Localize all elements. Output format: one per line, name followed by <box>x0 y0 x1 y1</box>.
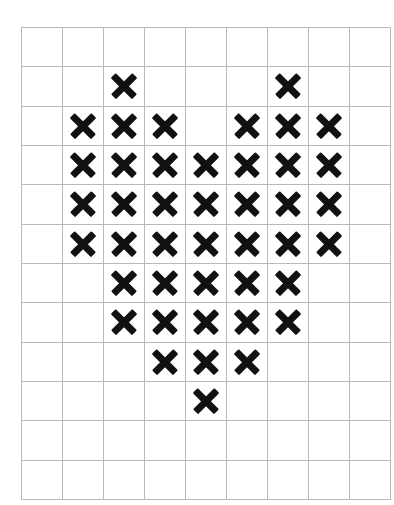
stitch-cell-empty[interactable] <box>104 381 145 420</box>
stitch-cell-filled[interactable] <box>186 303 227 342</box>
stitch-cell-empty[interactable] <box>145 381 186 420</box>
stitch-cell-empty[interactable] <box>268 421 309 460</box>
stitch-cell-empty[interactable] <box>350 28 391 67</box>
stitch-cell-filled[interactable] <box>268 263 309 302</box>
stitch-cell-empty[interactable] <box>63 28 104 67</box>
stitch-cell-empty[interactable] <box>63 421 104 460</box>
stitch-cell-empty[interactable] <box>268 381 309 420</box>
stitch-cell-filled[interactable] <box>104 145 145 184</box>
stitch-cell-filled[interactable] <box>268 106 309 145</box>
stitch-cell-filled[interactable] <box>309 224 350 263</box>
stitch-cell-empty[interactable] <box>186 67 227 106</box>
stitch-cell-empty[interactable] <box>350 342 391 381</box>
stitch-cell-empty[interactable] <box>22 381 63 420</box>
stitch-cell-empty[interactable] <box>227 28 268 67</box>
stitch-cell-filled[interactable] <box>186 224 227 263</box>
stitch-cell-empty[interactable] <box>104 460 145 499</box>
stitch-cell-empty[interactable] <box>104 421 145 460</box>
stitch-cell-empty[interactable] <box>22 263 63 302</box>
stitch-cell-empty[interactable] <box>63 67 104 106</box>
stitch-cell-empty[interactable] <box>186 421 227 460</box>
stitch-cell-filled[interactable] <box>186 263 227 302</box>
stitch-cell-empty[interactable] <box>309 67 350 106</box>
stitch-cell-empty[interactable] <box>63 460 104 499</box>
stitch-cell-filled[interactable] <box>227 106 268 145</box>
stitch-cell-filled[interactable] <box>63 224 104 263</box>
stitch-cell-empty[interactable] <box>22 145 63 184</box>
stitch-cell-empty[interactable] <box>309 303 350 342</box>
stitch-cell-filled[interactable] <box>268 303 309 342</box>
stitch-cell-filled[interactable] <box>268 185 309 224</box>
stitch-cell-filled[interactable] <box>186 185 227 224</box>
stitch-cell-empty[interactable] <box>104 342 145 381</box>
stitch-cell-filled[interactable] <box>145 145 186 184</box>
stitch-cell-empty[interactable] <box>22 106 63 145</box>
stitch-cell-empty[interactable] <box>145 28 186 67</box>
stitch-cell-empty[interactable] <box>309 342 350 381</box>
stitch-cell-empty[interactable] <box>22 303 63 342</box>
stitch-cell-empty[interactable] <box>227 421 268 460</box>
stitch-cell-empty[interactable] <box>63 263 104 302</box>
stitch-cell-empty[interactable] <box>268 460 309 499</box>
stitch-cell-empty[interactable] <box>186 106 227 145</box>
stitch-cell-filled[interactable] <box>227 263 268 302</box>
stitch-cell-empty[interactable] <box>268 28 309 67</box>
stitch-cell-empty[interactable] <box>350 67 391 106</box>
stitch-cell-empty[interactable] <box>309 263 350 302</box>
stitch-cell-filled[interactable] <box>63 185 104 224</box>
stitch-cell-filled[interactable] <box>104 67 145 106</box>
stitch-cell-empty[interactable] <box>350 263 391 302</box>
stitch-cell-filled[interactable] <box>104 303 145 342</box>
stitch-cell-empty[interactable] <box>350 106 391 145</box>
stitch-cell-filled[interactable] <box>104 106 145 145</box>
stitch-cell-empty[interactable] <box>186 28 227 67</box>
stitch-cell-filled[interactable] <box>186 145 227 184</box>
stitch-cell-filled[interactable] <box>309 145 350 184</box>
stitch-cell-empty[interactable] <box>350 460 391 499</box>
stitch-cell-filled[interactable] <box>309 185 350 224</box>
stitch-cell-filled[interactable] <box>186 342 227 381</box>
stitch-cell-filled[interactable] <box>268 67 309 106</box>
stitch-cell-empty[interactable] <box>22 224 63 263</box>
stitch-cell-empty[interactable] <box>268 342 309 381</box>
stitch-cell-empty[interactable] <box>22 28 63 67</box>
stitch-cell-empty[interactable] <box>145 421 186 460</box>
stitch-cell-filled[interactable] <box>63 106 104 145</box>
stitch-cell-empty[interactable] <box>350 224 391 263</box>
stitch-cell-empty[interactable] <box>22 460 63 499</box>
stitch-cell-empty[interactable] <box>350 303 391 342</box>
stitch-cell-filled[interactable] <box>309 106 350 145</box>
stitch-cell-empty[interactable] <box>309 28 350 67</box>
stitch-cell-empty[interactable] <box>350 185 391 224</box>
stitch-cell-empty[interactable] <box>22 67 63 106</box>
stitch-cell-empty[interactable] <box>22 342 63 381</box>
stitch-cell-filled[interactable] <box>104 185 145 224</box>
stitch-cell-filled[interactable] <box>145 185 186 224</box>
stitch-cell-empty[interactable] <box>309 460 350 499</box>
stitch-cell-empty[interactable] <box>227 381 268 420</box>
stitch-cell-empty[interactable] <box>145 67 186 106</box>
stitch-cell-filled[interactable] <box>145 342 186 381</box>
stitch-cell-empty[interactable] <box>350 145 391 184</box>
stitch-cell-empty[interactable] <box>22 185 63 224</box>
stitch-cell-empty[interactable] <box>63 303 104 342</box>
stitch-cell-filled[interactable] <box>63 145 104 184</box>
stitch-cell-empty[interactable] <box>22 421 63 460</box>
stitch-cell-filled[interactable] <box>145 263 186 302</box>
stitch-cell-filled[interactable] <box>145 303 186 342</box>
stitch-cell-empty[interactable] <box>227 67 268 106</box>
stitch-cell-filled[interactable] <box>186 381 227 420</box>
stitch-cell-empty[interactable] <box>186 460 227 499</box>
stitch-cell-filled[interactable] <box>104 263 145 302</box>
stitch-cell-empty[interactable] <box>350 421 391 460</box>
stitch-cell-filled[interactable] <box>268 224 309 263</box>
stitch-cell-filled[interactable] <box>104 224 145 263</box>
stitch-cell-filled[interactable] <box>227 342 268 381</box>
stitch-cell-filled[interactable] <box>145 106 186 145</box>
stitch-cell-filled[interactable] <box>227 185 268 224</box>
stitch-cell-filled[interactable] <box>145 224 186 263</box>
stitch-cell-empty[interactable] <box>309 421 350 460</box>
stitch-cell-empty[interactable] <box>63 381 104 420</box>
stitch-cell-filled[interactable] <box>227 303 268 342</box>
stitch-cell-empty[interactable] <box>63 342 104 381</box>
